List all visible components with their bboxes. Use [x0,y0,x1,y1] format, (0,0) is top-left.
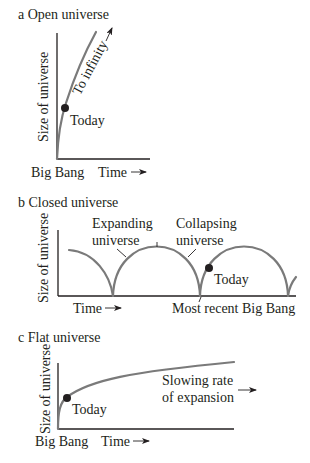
today-dot [61,104,69,112]
most-recent-big-bang-label: Most recent Big Bang [172,301,295,316]
expanding-leader-line [117,249,126,257]
collapsing-leader-line [188,249,196,257]
today-label: Today [70,113,105,128]
cycle-arc-3 [288,277,296,296]
y-axis-label: Size of universe [36,213,51,303]
y-axis-label: Size of universe [36,52,51,142]
expanding-label-line1: Expanding [92,216,153,231]
big-bang-label: Big Bang [31,165,84,180]
universe-models-diagram: a Open universe Today To infinity Size o… [0,0,310,463]
time-label: Time [73,301,102,316]
slowing-label-line2: of expansion [162,390,234,405]
panel-closed-universe: b Closed universe Today Expanding univer… [18,195,296,316]
today-dot [63,394,71,402]
today-label: Today [214,272,249,287]
today-label: Today [72,402,107,417]
today-dot [205,264,213,272]
panel-c-title: c Flat universe [18,330,100,345]
expanding-label-line2: universe [92,233,139,248]
time-label: Time [101,434,130,449]
to-infinity-arrow-icon [106,28,112,41]
collapse-arc-0 [69,250,113,296]
panel-a-title: a Open universe [18,7,109,22]
collapsing-label-line2: universe [176,233,223,248]
panel-open-universe: a Open universe Today To infinity Size o… [18,7,150,180]
panel-b-title: b Closed universe [18,195,118,210]
time-label: Time [98,165,127,180]
y-axis-label: Size of universe [38,344,53,434]
to-infinity-label: To infinity [69,38,110,97]
slowing-label-line1: Slowing rate [162,373,233,388]
big-bang-label: Big Bang [35,434,88,449]
cycle-arc-1 [113,247,200,297]
collapsing-label-line1: Collapsing [176,216,237,231]
panel-flat-universe: c Flat universe Today Slowing rate of ex… [18,330,256,449]
